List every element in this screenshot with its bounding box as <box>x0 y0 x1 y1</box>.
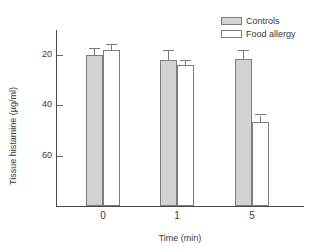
legend-item-controls: Controls <box>221 15 319 26</box>
error-bar-cap <box>255 114 266 115</box>
y-tick-label-60: 60 <box>12 151 52 160</box>
y-tick-label-40: 40 <box>12 100 52 109</box>
x-axis-title: Time (min) <box>56 233 304 243</box>
bar-food-allergy <box>103 50 120 206</box>
error-bar-whisker <box>168 51 169 60</box>
food-allergy-swatch-icon <box>221 30 242 38</box>
error-bar-whisker <box>111 45 112 50</box>
error-bar-cap <box>238 50 249 51</box>
bar-group <box>160 30 194 206</box>
chart-legend: Controls Food allergy <box>221 15 319 41</box>
legend-label-controls: Controls <box>246 16 280 26</box>
plot-area <box>56 30 304 206</box>
bar-food-allergy <box>177 65 194 206</box>
bar-food-allergy <box>252 122 269 206</box>
x-category-label-0: 0 <box>83 210 123 221</box>
error-bar-whisker <box>185 61 186 65</box>
error-bar-whisker <box>94 49 95 55</box>
bar-chart-figure: 60 40 20 Tissue histamine (µg/ml) Time (… <box>0 0 322 252</box>
error-bar-cap <box>106 44 117 45</box>
error-bar-cap <box>163 50 174 51</box>
legend-label-food-allergy: Food allergy <box>246 29 296 39</box>
bar-controls <box>160 60 177 206</box>
bar-group <box>235 30 269 206</box>
error-bar-whisker <box>260 116 261 122</box>
y-tick-label-20: 20 <box>12 50 52 59</box>
legend-item-food-allergy: Food allergy <box>221 28 319 39</box>
controls-swatch-icon <box>221 17 242 25</box>
error-bar-cap <box>89 48 100 49</box>
error-bar-whisker <box>243 51 244 59</box>
x-axis-line <box>56 206 304 207</box>
x-category-label-1: 1 <box>157 210 197 221</box>
bar-group <box>86 30 120 206</box>
x-category-label-2: 5 <box>232 210 272 221</box>
bar-controls <box>235 59 252 206</box>
error-bar-cap <box>180 60 191 61</box>
bar-controls <box>86 55 103 206</box>
